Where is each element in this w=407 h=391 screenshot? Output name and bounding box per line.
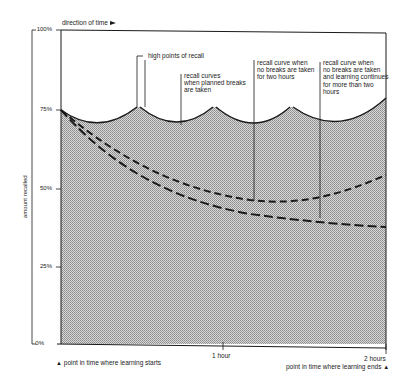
annotation-no-breaks-two-hours: recall curve when no breaks are taken fo…	[257, 59, 314, 81]
y-tick-label-75: 75%	[22, 106, 52, 112]
annotation-line: hours	[323, 88, 388, 95]
annotation-line: and learning continues	[323, 73, 388, 80]
up-arrow-icon: ▲	[56, 360, 62, 366]
y-tick-label-0: 0%	[14, 340, 44, 346]
learning-starts-label: ▲ point in time where learning starts	[56, 359, 161, 368]
y-tick-label-25: 25%	[22, 263, 52, 269]
annotation-line: are taken	[184, 86, 246, 93]
annotation-line: recall curve when	[323, 59, 388, 66]
annotation-line: recall curves	[184, 72, 246, 79]
learning-ends-text: point in time where learning ends	[286, 363, 381, 370]
annotation-line: for two hours	[257, 73, 314, 80]
learning-ends-label: point in time where learning ends ▲	[286, 363, 389, 372]
y-axis-label: amount recalled	[22, 175, 28, 218]
high-points-leader	[137, 56, 143, 107]
recall-area-fill	[61, 98, 386, 344]
direction-arrow-icon	[110, 21, 116, 25]
annotation-line: when planned breaks	[184, 79, 246, 86]
annotation-line: no breaks are taken	[257, 66, 314, 73]
annotation-planned-breaks: recall curves when planned breaks are ta…	[184, 72, 246, 94]
annotation-no-breaks-more: recall curve when no breaks are taken an…	[323, 59, 388, 95]
x-tick-label-1h: 1 hour	[212, 352, 230, 360]
up-arrow-icon: ▲	[383, 364, 389, 370]
direction-of-time-label: direction of time	[62, 19, 108, 27]
annotation-high-points: high points of recall	[148, 52, 204, 59]
x-tick-label-2h: 2 hours	[364, 355, 386, 363]
annotation-line: for more than two	[323, 81, 388, 88]
top-border	[61, 30, 386, 33]
annotation-line: recall curve when	[257, 59, 314, 66]
y-tick-label-100: 100%	[22, 26, 52, 32]
learning-starts-text: point in time where learning starts	[64, 359, 161, 366]
annotation-line: no breaks are taken	[323, 66, 388, 73]
x-axis-line	[57, 344, 386, 348]
